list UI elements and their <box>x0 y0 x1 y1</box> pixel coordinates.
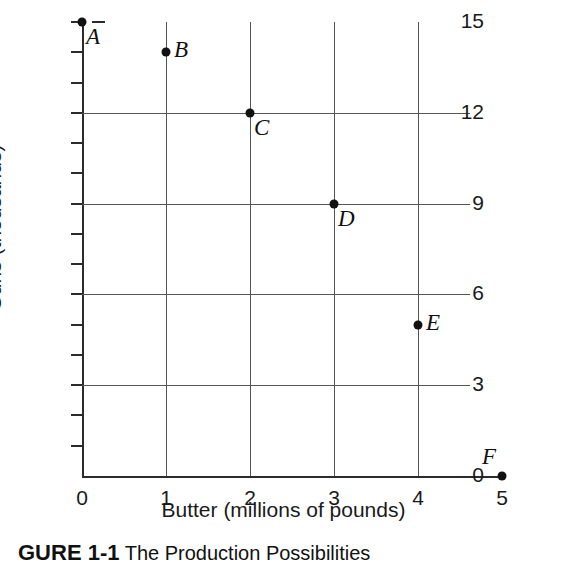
data-point-label: A <box>86 24 100 50</box>
y-axis-tick-top <box>92 21 105 23</box>
caption-label: GURE 1-1 <box>18 541 119 564</box>
y-axis-tick <box>71 354 82 356</box>
y-axis-tick <box>71 384 82 386</box>
y-axis-tick-label: 9 <box>444 191 484 215</box>
y-axis-tick-label: 15 <box>444 9 484 33</box>
y-axis-tick <box>71 51 82 53</box>
y-axis-tick <box>71 203 82 205</box>
gridline-horizontal <box>82 113 470 114</box>
data-point <box>498 472 507 481</box>
gridline-vertical <box>418 22 419 476</box>
y-axis-tick-label: 0 <box>444 463 484 487</box>
gridline-horizontal <box>82 204 470 205</box>
y-axis-tick <box>71 293 82 295</box>
caption-text: The Production Possibilities <box>125 542 371 564</box>
y-axis-title: Guns (thousands) <box>0 0 12 456</box>
data-point-label: F <box>482 444 496 470</box>
data-point <box>162 48 171 57</box>
y-axis-tick <box>71 233 82 235</box>
x-axis-title: Butter (millions of pounds) <box>0 498 567 522</box>
y-axis-tick <box>71 263 82 265</box>
y-axis-line <box>82 22 84 478</box>
gridline-horizontal <box>82 385 470 386</box>
y-axis-tick <box>71 82 82 84</box>
y-axis-tick-label: 6 <box>444 281 484 305</box>
y-axis-tick <box>71 445 82 447</box>
data-point-label: B <box>174 37 188 63</box>
chart-plot-area: 03691215 012345 ABCDEF <box>82 22 502 478</box>
gridline-vertical <box>250 22 251 476</box>
figure-caption: GURE 1-1 The Production Possibilities <box>18 541 567 564</box>
y-axis-tick <box>71 324 82 326</box>
y-axis-tick <box>71 172 82 174</box>
gridline-vertical <box>166 22 167 476</box>
y-axis-tick <box>71 414 82 416</box>
y-axis-tick-label: 3 <box>444 372 484 396</box>
y-axis-tick <box>71 142 82 144</box>
gridline-horizontal <box>82 294 470 295</box>
data-point-label: D <box>338 206 355 232</box>
y-axis-tick <box>71 112 82 114</box>
y-axis-tick-label: 12 <box>444 100 484 124</box>
x-axis-line <box>82 476 502 478</box>
data-point <box>414 320 423 329</box>
data-point-label: E <box>426 310 440 336</box>
data-point-label: C <box>254 115 269 141</box>
gridline-vertical <box>334 22 335 476</box>
